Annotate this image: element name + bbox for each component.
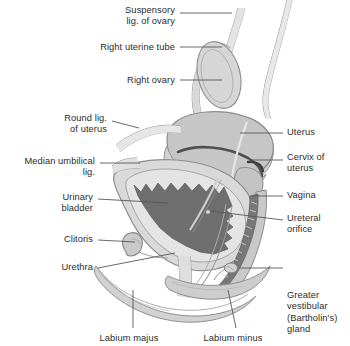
suspensory-ligament-structure [263, 0, 292, 119]
label-suspensory-ligament-of-ovary: Suspensory lig. of ovary [103, 5, 175, 28]
anatomical-figure: Suspensory lig. of ovaryRight uterine tu… [0, 0, 350, 346]
label-urinary-bladder: Urinary bladder [28, 192, 93, 215]
label-uterus: Uterus [287, 127, 349, 138]
label-median-umbilical-ligament: Median umbilical lig. [3, 156, 95, 179]
label-labium-minus: Labium minus [194, 333, 272, 344]
label-greater-vestibular-bartholins-gland: Greater vestibular (Bartholin's) gland [287, 290, 349, 336]
label-right-uterine-tube: Right uterine tube [78, 42, 175, 53]
label-round-ligament-of-uterus: Round lig. of uterus [42, 113, 107, 136]
label-vagina: Vagina [287, 190, 349, 201]
label-right-ovary: Right ovary [110, 75, 175, 86]
label-urethra: Urethra [31, 262, 93, 273]
label-clitoris: Clitoris [33, 234, 93, 245]
leader-urethra [98, 253, 175, 268]
leader-round-ligament-of-uterus [112, 121, 139, 128]
label-ureteral-orifice: Ureteral orifice [287, 213, 349, 236]
label-labium-majus: Labium majus [90, 333, 168, 344]
label-cervix-of-uterus: Cervix of uterus [287, 152, 349, 175]
